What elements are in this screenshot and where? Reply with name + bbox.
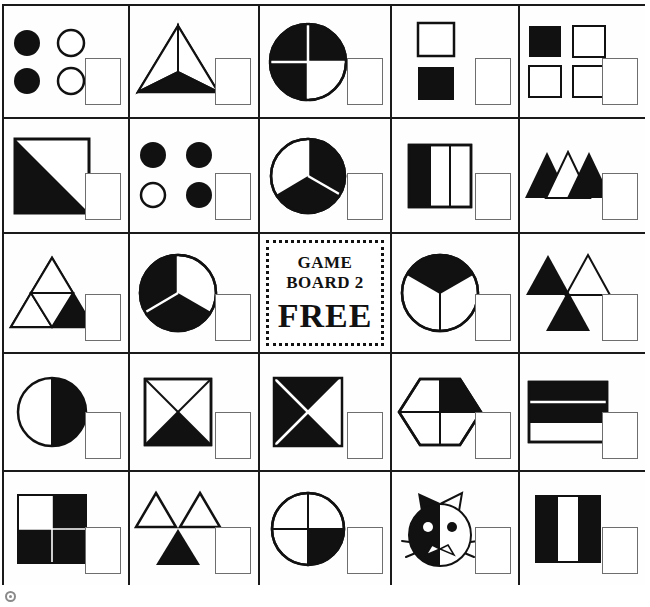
shape-square-quarters-one-shaded <box>130 354 226 470</box>
answer-box-r2c4[interactable] <box>475 173 511 220</box>
bingo-game-board: GAME BOARD 2 FREE <box>2 4 645 585</box>
board-cell-r5c4[interactable] <box>392 472 520 585</box>
answer-box-r1c5[interactable] <box>602 58 638 105</box>
board-cell-r1c4[interactable] <box>392 6 520 119</box>
answer-box-r1c4[interactable] <box>475 58 511 105</box>
answer-box-r4c1[interactable] <box>85 412 121 459</box>
answer-box-r4c3[interactable] <box>347 412 383 459</box>
shape-circle-quarters-three-shaded <box>260 6 356 117</box>
shape-circle-thirds-two-shaded <box>260 119 356 232</box>
shape-four-circles-three-shaded <box>130 119 226 232</box>
answer-box-r1c2[interactable] <box>215 58 251 105</box>
answer-box-r3c4[interactable] <box>475 294 511 341</box>
board-cell-r2c5[interactable] <box>520 119 645 234</box>
shape-hexagon-quarters-one-shaded <box>392 354 488 470</box>
board-cell-r1c3[interactable] <box>260 6 392 119</box>
board-cell-r3c1[interactable] <box>4 234 130 354</box>
board-cell-r4c4[interactable] <box>392 354 520 472</box>
board-cell-r5c5[interactable] <box>520 472 645 585</box>
answer-box-r4c4[interactable] <box>475 412 511 459</box>
free-space-panel: GAME BOARD 2 FREE <box>266 240 384 346</box>
board-cell-r4c2[interactable] <box>130 354 260 472</box>
answer-box-r2c3[interactable] <box>347 173 383 220</box>
board-cell-r4c1[interactable] <box>4 354 130 472</box>
board-cell-r3c2[interactable] <box>130 234 260 354</box>
board-cell-r4c3[interactable] <box>260 354 392 472</box>
shape-triangle-thirds-one-shaded <box>130 6 226 117</box>
answer-box-r5c1[interactable] <box>85 527 121 574</box>
board-cell-r3c5[interactable] <box>520 234 645 354</box>
shape-circle-thirds-one-shaded <box>392 234 488 352</box>
shape-circle-quarters-one-shaded <box>260 472 356 585</box>
answer-box-r2c2[interactable] <box>215 173 251 220</box>
board-cell-r5c3[interactable] <box>260 472 392 585</box>
board-cell-r1c1[interactable] <box>4 6 130 119</box>
shape-three-triangles-one-shaded <box>130 472 226 585</box>
board-cell-r1c5[interactable] <box>520 6 645 119</box>
game-board-title: GAME BOARD 2 <box>269 253 381 293</box>
board-cell-r2c3[interactable] <box>260 119 392 234</box>
answer-box-r3c1[interactable] <box>85 294 121 341</box>
board-cell-free-space[interactable]: GAME BOARD 2 FREE <box>260 234 392 354</box>
board-cell-r5c2[interactable] <box>130 472 260 585</box>
board-cell-r4c5[interactable] <box>520 354 645 472</box>
copyright-mark-icon <box>5 591 16 602</box>
board-cell-r5c1[interactable] <box>4 472 130 585</box>
answer-box-r5c3[interactable] <box>347 527 383 574</box>
answer-box-r4c2[interactable] <box>215 412 251 459</box>
board-cell-r2c4[interactable] <box>392 119 520 234</box>
answer-box-r3c5[interactable] <box>602 294 638 341</box>
answer-box-r1c3[interactable] <box>347 58 383 105</box>
board-cell-r2c2[interactable] <box>130 119 260 234</box>
shape-two-squares-one-shaded <box>392 6 488 117</box>
answer-box-r1c1[interactable] <box>85 58 121 105</box>
answer-box-r5c4[interactable] <box>475 527 511 574</box>
answer-box-r2c1[interactable] <box>85 173 121 220</box>
answer-box-r5c2[interactable] <box>215 527 251 574</box>
board-cell-r1c2[interactable] <box>130 6 260 119</box>
board-cell-r2c1[interactable] <box>4 119 130 234</box>
board-cell-r3c4[interactable] <box>392 234 520 354</box>
answer-box-r2c5[interactable] <box>602 173 638 220</box>
answer-box-r5c5[interactable] <box>602 527 638 574</box>
answer-box-r4c5[interactable] <box>602 412 638 459</box>
shape-rectangle-vertical-thirds-one-shaded <box>392 119 488 232</box>
free-label: FREE <box>278 298 373 334</box>
shape-square-quarters-three-shaded <box>260 354 356 470</box>
shape-cat-face-halved-one-shaded <box>392 472 488 585</box>
answer-box-r3c2[interactable] <box>215 294 251 341</box>
shape-circle-thirds-two-shaded <box>130 234 226 352</box>
